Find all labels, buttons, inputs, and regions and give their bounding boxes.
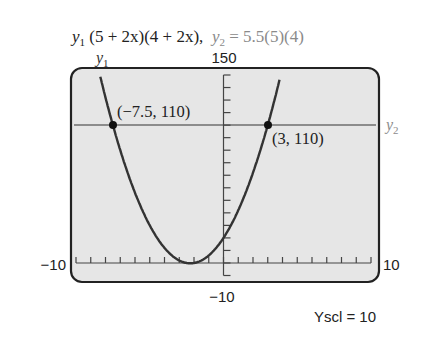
graph-canvas: (−7.5, 110) (3, 110) y1 y2 150 −10 −10 1… (0, 0, 426, 344)
y2-line-label: y2 (384, 116, 399, 136)
y1-curve-label: y1 (94, 49, 109, 69)
point-left-label: (−7.5, 110) (117, 102, 190, 121)
intersection-point-right (264, 121, 272, 129)
yscl-label: Yscl = 10 (314, 308, 376, 325)
xmin-label: −10 (41, 256, 66, 273)
point-right-label: (3, 110) (272, 129, 324, 148)
ymin-label: −10 (209, 288, 234, 305)
ymax-label: 150 (211, 49, 236, 66)
xmax-label: 10 (383, 256, 400, 273)
intersection-point-left (109, 121, 117, 129)
